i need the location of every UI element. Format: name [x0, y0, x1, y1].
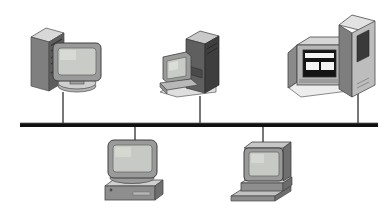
node-file-server[interactable] [31, 28, 101, 92]
case-drive-slot [133, 192, 150, 195]
tower-side-face [205, 36, 219, 93]
terminal-housing-left [288, 45, 297, 88]
network-bus [20, 123, 378, 125]
node-slim-workstation[interactable] [231, 142, 292, 201]
mainframe-tower [339, 15, 375, 97]
monitor-screen-glare [115, 147, 131, 157]
file-server-monitor [53, 43, 101, 92]
monitor-screen-glare [60, 50, 76, 60]
base-front-face [241, 183, 283, 191]
terminal-screen-block-left [306, 62, 319, 70]
monitor-screen-glare [251, 154, 264, 163]
network-diagram-canvas [0, 0, 392, 218]
terminal-screen-title-bar [305, 53, 334, 58]
node-mainframe-terminal[interactable] [288, 15, 375, 97]
tower-drive-panel [357, 30, 369, 62]
case-power-led [110, 189, 113, 192]
desktop-monitor [108, 140, 157, 184]
tower-front-face [31, 37, 49, 91]
workstation-monitor [244, 142, 291, 181]
monitor-bezel-top [244, 142, 291, 148]
node-tower-workstation[interactable] [160, 31, 219, 97]
terminal-bezel-strip [299, 79, 338, 83]
monitor-bezel-side [283, 142, 291, 181]
tower-left-face [339, 25, 352, 97]
keyboard-front-face [231, 196, 275, 201]
terminal-screen-block-right [321, 62, 334, 70]
node-desktop-pc[interactable] [105, 140, 163, 200]
